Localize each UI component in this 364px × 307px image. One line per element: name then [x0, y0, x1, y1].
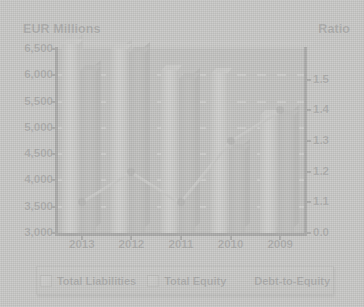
y-axis-left-label: 4,000	[8, 173, 53, 185]
y-axis-left-label: 3,500	[8, 200, 53, 212]
y-axis-right-label: 1.5	[313, 73, 329, 85]
legend-label: Total Equity	[164, 275, 226, 287]
legend-item[interactable]: Debt-to-Equity	[237, 275, 330, 287]
legend-label: Total Liabilities	[57, 275, 136, 287]
y-axis-left-label: 4,500	[8, 147, 53, 159]
x-axis-label: 2009	[258, 238, 302, 250]
y-axis-right-line	[304, 47, 307, 235]
legend-item[interactable]: Total Equity	[147, 275, 226, 287]
chart-legend: Total LiabilitiesTotal EquityDebt-to-Equ…	[36, 266, 334, 295]
y-axis-right-title: Ratio	[318, 22, 350, 36]
chart-container: EUR Millions Ratio 6,5006,0005,5005,0004…	[0, 0, 364, 307]
y-axis-left-title: EUR Millions	[23, 22, 101, 36]
line-series-layer	[57, 49, 305, 233]
x-axis-labels: 20132012201120102009	[57, 238, 305, 256]
y-axis-right-label: 0.0	[313, 226, 329, 238]
legend-swatch-icon	[147, 275, 159, 287]
y-axis-left-line	[55, 47, 58, 235]
y-axis-right-label: 1.2	[313, 165, 329, 177]
x-axis-label: 2010	[209, 238, 253, 250]
plot-area	[57, 49, 305, 233]
line-marker	[79, 199, 85, 205]
y-axis-left-label: 3,000	[8, 226, 53, 238]
line-marker	[228, 138, 234, 144]
y-axis-right-label: 1.1	[313, 195, 329, 207]
line-segment	[230, 110, 281, 143]
line-marker	[178, 199, 184, 205]
line-segment	[131, 171, 182, 204]
y-axis-left-label: 5,000	[8, 121, 53, 133]
x-axis-label: 2011	[159, 238, 203, 250]
y-axis-right-label: 1.4	[313, 103, 329, 115]
line-segment	[81, 171, 132, 204]
y-axis-left-label: 6,500	[8, 42, 53, 54]
line-marker	[277, 107, 283, 113]
x-axis-line	[55, 233, 307, 236]
x-axis-label: 2013	[60, 238, 104, 250]
y-axis-left-label: 6,000	[8, 68, 53, 80]
y-axis-right-labels: 1.51.41.31.21.10.0	[313, 49, 358, 233]
legend-label: Debt-to-Equity	[254, 275, 330, 287]
y-axis-left-labels: 6,5006,0005,5005,0004,5004,0003,5003,000	[8, 49, 53, 233]
legend-swatch-icon	[40, 275, 52, 287]
x-axis-label: 2012	[109, 238, 153, 250]
legend-swatch-icon	[237, 279, 249, 282]
line-segment	[180, 141, 232, 204]
y-axis-right-label: 1.3	[313, 134, 329, 146]
y-axis-left-label: 5,500	[8, 95, 53, 107]
legend-item[interactable]: Total Liabilities	[40, 275, 136, 287]
